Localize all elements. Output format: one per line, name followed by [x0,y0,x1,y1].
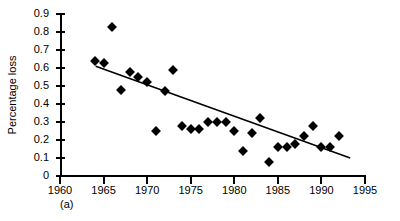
y-axis-title: Percentage loss [5,14,19,176]
data-point [325,142,335,152]
y-tick: 0.8 [56,31,65,33]
y-tick-label: 0 [43,170,49,181]
x-tick: 1985 [277,175,279,184]
x-tick: 1990 [320,175,322,184]
plot-area: 00.10.20.30.40.50.60.70.80.9 19601965197… [60,14,365,176]
data-point [168,65,178,75]
data-point [142,77,152,87]
data-point [194,124,204,134]
x-tick-label: 1985 [266,185,290,196]
y-tick-label: 0.2 [34,134,49,145]
data-point [308,121,318,131]
y-tick: 0.7 [56,49,65,51]
y-tick-label: 0.4 [34,98,49,109]
data-point [90,56,100,66]
data-point [160,86,170,96]
x-tick-label: 1990 [309,185,333,196]
data-point [255,113,265,123]
x-tick-label: 1975 [178,185,202,196]
x-tick: 1980 [233,175,235,184]
data-point [99,58,109,68]
data-point [229,126,239,136]
figure-panel-a: 00.10.20.30.40.50.60.70.80.9 19601965197… [0,0,400,221]
y-axis-line [60,14,62,177]
panel-caption: (a) [60,198,73,210]
y-tick: 0.1 [56,157,65,159]
y-tick: 0.3 [56,121,65,123]
y-tick-label: 0.1 [34,152,49,163]
y-tick: 0.2 [56,139,65,141]
data-point [221,117,231,127]
trend-line [60,14,365,176]
x-tick-label: 1995 [353,185,377,196]
y-tick-label: 0.5 [34,80,49,91]
data-point [299,131,309,141]
data-point [107,22,117,32]
y-tick-label: 0.8 [34,26,49,37]
y-tick: 0.6 [56,67,65,69]
y-tick-label: 0.7 [34,44,49,55]
x-tick-label: 1970 [135,185,159,196]
data-point [238,146,248,156]
x-tick: 1965 [103,175,105,184]
data-point [116,85,126,95]
y-tick: 0.5 [56,85,65,87]
y-tick-label: 0.9 [34,8,49,19]
x-tick-label: 1965 [91,185,115,196]
data-point [247,128,257,138]
y-tick-label: 0.3 [34,116,49,127]
data-point [151,126,161,136]
x-tick: 1960 [59,175,61,184]
x-tick: 1970 [146,175,148,184]
x-tick: 1975 [190,175,192,184]
y-tick: 0.4 [56,103,65,105]
data-point [334,131,344,141]
x-tick: 1995 [364,175,366,184]
x-tick-label: 1960 [48,185,72,196]
x-tick-label: 1980 [222,185,246,196]
y-tick-label: 0.6 [34,62,49,73]
y-tick: 0.9 [56,13,65,15]
data-point [264,157,274,167]
